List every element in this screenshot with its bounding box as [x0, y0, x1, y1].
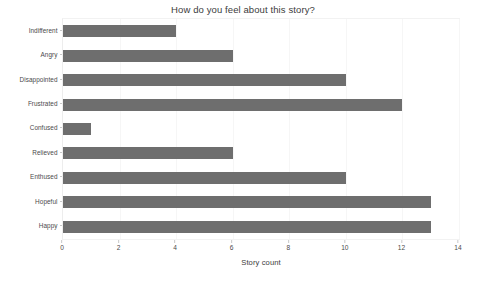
y-tick-indifferent: Indifferent — [29, 18, 62, 42]
bar-chart-figure: How do you feel about this story? Indiff… — [0, 0, 486, 285]
y-tick-label: Hopeful — [35, 198, 57, 205]
x-tick-4: 4 — [173, 240, 177, 251]
y-tick-label: Disappointed — [20, 76, 58, 83]
x-tick-14: 14 — [454, 240, 461, 251]
x-tick-mark — [231, 240, 232, 243]
x-tick-mark — [458, 240, 459, 243]
x-tick-mark — [401, 240, 402, 243]
bar-angry[interactable] — [63, 50, 233, 62]
y-tick-label: Indifferent — [29, 27, 58, 34]
x-tick-mark — [175, 240, 176, 243]
x-tick-label: 10 — [341, 244, 348, 251]
x-axis: 02468101214 — [62, 240, 460, 254]
x-axis-label: Story count — [62, 258, 460, 267]
chart-title: How do you feel about this story? — [0, 4, 486, 15]
x-tick-12: 12 — [398, 240, 405, 251]
x-tick-label: 14 — [454, 244, 461, 251]
bar-row[interactable] — [63, 19, 459, 43]
bar-row[interactable] — [63, 141, 459, 165]
bar-row[interactable] — [63, 117, 459, 141]
bar-happy[interactable] — [63, 221, 431, 233]
y-tick-label: Confused — [30, 124, 58, 131]
x-tick-2: 2 — [117, 240, 121, 251]
y-tick-angry: Angry — [41, 42, 62, 66]
x-tick-label: 8 — [286, 244, 290, 251]
x-tick-6: 6 — [230, 240, 234, 251]
plot-area — [62, 18, 460, 240]
bar-row[interactable] — [63, 190, 459, 214]
y-tick-disappointed: Disappointed — [20, 67, 62, 91]
y-tick-label: Happy — [39, 222, 58, 229]
x-tick-label: 0 — [60, 244, 64, 251]
x-tick-label: 12 — [398, 244, 405, 251]
x-tick-mark — [288, 240, 289, 243]
bar-row[interactable] — [63, 68, 459, 92]
y-tick-frustrated: Frustrated — [28, 91, 62, 115]
y-tick-label: Frustrated — [28, 100, 58, 107]
bar-row[interactable] — [63, 215, 459, 239]
bars-layer — [63, 19, 459, 239]
bar-enthused[interactable] — [63, 172, 346, 184]
bar-frustrated[interactable] — [63, 99, 402, 111]
bar-row[interactable] — [63, 166, 459, 190]
x-tick-mark — [61, 240, 62, 243]
bar-hopeful[interactable] — [63, 196, 431, 208]
x-tick-mark — [344, 240, 345, 243]
bar-row[interactable] — [63, 92, 459, 116]
gridline — [459, 19, 460, 239]
bar-relieved[interactable] — [63, 147, 233, 159]
x-tick-label: 2 — [117, 244, 121, 251]
y-tick-enthused: Enthused — [30, 165, 62, 189]
y-tick-hopeful: Hopeful — [35, 189, 62, 213]
y-tick-label: Angry — [41, 51, 58, 58]
x-tick-8: 8 — [286, 240, 290, 251]
x-tick-label: 4 — [173, 244, 177, 251]
y-tick-relieved: Relieved — [32, 140, 62, 164]
y-tick-confused: Confused — [30, 116, 62, 140]
x-tick-label: 6 — [230, 244, 234, 251]
bar-confused[interactable] — [63, 123, 91, 135]
bar-disappointed[interactable] — [63, 74, 346, 86]
x-tick-10: 10 — [341, 240, 348, 251]
bar-row[interactable] — [63, 43, 459, 67]
y-tick-happy: Happy — [39, 214, 62, 238]
x-tick-0: 0 — [60, 240, 64, 251]
bar-indifferent[interactable] — [63, 25, 176, 37]
x-tick-mark — [118, 240, 119, 243]
y-tick-label: Enthused — [30, 173, 57, 180]
y-tick-label: Relieved — [32, 149, 57, 156]
y-axis: IndifferentAngryDisappointedFrustratedCo… — [0, 18, 62, 240]
